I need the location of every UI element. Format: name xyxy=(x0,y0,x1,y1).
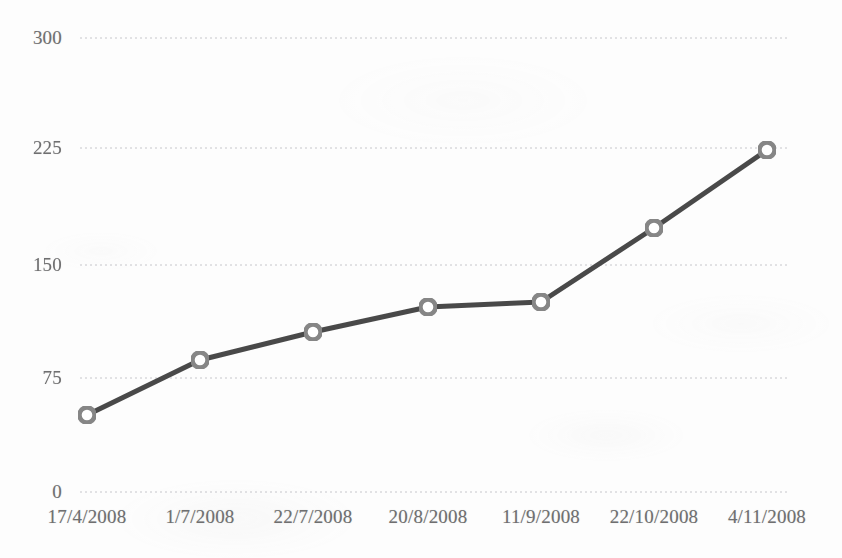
line-chart: 075150225300 17/4/20081/7/200822/7/20082… xyxy=(0,0,842,558)
data-point-marker xyxy=(420,299,435,314)
chart-plot-area xyxy=(0,0,842,558)
data-point-marker xyxy=(533,294,548,309)
y-axis-tick-label: 150 xyxy=(33,254,62,276)
y-axis-tick-label: 225 xyxy=(33,137,62,159)
x-axis-tick-label: 22/10/2008 xyxy=(610,506,699,528)
series-line xyxy=(87,150,767,415)
y-axis-tick-label: 0 xyxy=(52,481,62,503)
x-axis-tick-label: 1/7/2008 xyxy=(165,506,234,528)
x-axis-tick-label: 20/8/2008 xyxy=(389,506,468,528)
gridlines xyxy=(80,38,790,492)
data-markers xyxy=(79,142,774,422)
data-point-marker xyxy=(192,352,207,367)
x-axis-tick-label: 11/9/2008 xyxy=(502,506,580,528)
y-axis-tick-label: 300 xyxy=(33,27,62,49)
data-point-marker xyxy=(646,220,661,235)
data-point-marker xyxy=(79,407,94,422)
data-point-marker xyxy=(305,324,320,339)
y-axis-tick-label: 75 xyxy=(43,367,62,389)
data-line xyxy=(87,150,767,415)
x-axis-tick-label: 22/7/2008 xyxy=(274,506,353,528)
x-axis-tick-label: 17/4/2008 xyxy=(48,506,127,528)
x-axis-tick-label: 4/11/2008 xyxy=(728,506,806,528)
data-point-marker xyxy=(759,142,774,157)
